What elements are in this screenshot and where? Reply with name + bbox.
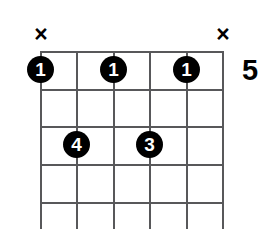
finger-dot-string-5-fret-1: 1: [173, 56, 200, 83]
fret-line-4: [40, 202, 224, 204]
mute-marker-string-1: ×: [30, 23, 52, 45]
mute-marker-string-6: ×: [212, 23, 234, 45]
fret-line-2: [40, 126, 224, 128]
finger-dot-string-3-fret-1: 1: [100, 56, 127, 83]
fret-position-label: 5: [242, 55, 258, 85]
finger-dot-string-2-fret-3: 4: [63, 131, 90, 158]
guitar-chord-diagram: × × 1 1 1 4 3 5: [0, 0, 274, 229]
string-line-6: [222, 51, 224, 229]
fret-line-0: [40, 51, 224, 53]
fret-line-1: [40, 89, 224, 91]
finger-dot-string-4-fret-3: 3: [136, 131, 163, 158]
fret-line-3: [40, 164, 224, 166]
finger-dot-string-1-fret-1: 1: [27, 56, 54, 83]
